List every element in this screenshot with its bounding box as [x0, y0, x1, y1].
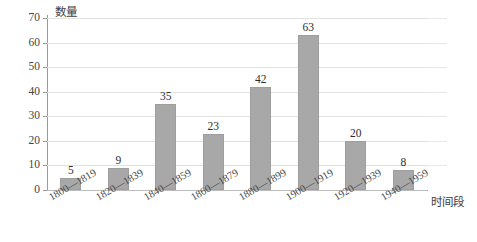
y-tick-mark — [43, 190, 47, 191]
y-tick-label: 40 — [14, 86, 40, 98]
y-tick-label: 0 — [14, 184, 40, 196]
y-tick-label: 60 — [14, 37, 40, 49]
gridline-extension — [427, 165, 447, 166]
bar-value-label: 9 — [98, 154, 138, 166]
bar-value-label: 35 — [146, 90, 186, 102]
y-tick-label: 20 — [14, 135, 40, 147]
y-tick-label: 10 — [14, 159, 40, 171]
y-tick-label: 70 — [14, 12, 40, 24]
gridline-extension — [427, 116, 447, 117]
y-tick-label: 30 — [14, 110, 40, 122]
bar-value-label: 23 — [193, 120, 233, 132]
bar-value-label: 8 — [383, 156, 423, 168]
bar-value-label: 63 — [288, 21, 328, 33]
gridline-extension — [427, 18, 447, 19]
gridline-extension — [427, 141, 447, 142]
bar-chart: 数量 时间段 010203040506070 5935234263208 180… — [0, 0, 477, 242]
gridline-extension — [427, 43, 447, 44]
gridline-extension — [427, 92, 447, 93]
gridline-extension — [427, 67, 447, 68]
y-tick-label: 50 — [14, 61, 40, 73]
x-axis-title: 时间段 — [431, 196, 464, 209]
bar — [298, 35, 319, 190]
bar-value-label: 42 — [241, 73, 281, 85]
bar-value-label: 20 — [336, 127, 376, 139]
